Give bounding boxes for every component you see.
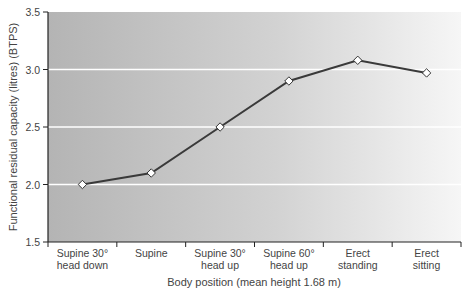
x-category-label: Supine <box>135 247 168 259</box>
y-tick-label: 3.0 <box>25 64 40 76</box>
y-ticks: 1.52.02.53.03.5 <box>25 6 48 248</box>
y-tick-label: 2.5 <box>25 121 40 133</box>
x-axis-title: Body position (mean height 1.68 m) <box>167 276 341 288</box>
x-category-label: Erectsitting <box>413 247 441 271</box>
line-chart: 1.52.02.53.03.5 Supine 30°head downSupin… <box>0 0 469 298</box>
y-tick-label: 2.0 <box>25 179 40 191</box>
x-category-label: Supine 60°head up <box>263 247 315 271</box>
x-category-label: Erectstanding <box>338 247 378 271</box>
x-category-label: Supine 30°head down <box>57 247 109 271</box>
y-tick-label: 1.5 <box>25 236 40 248</box>
x-ticks: Supine 30°head downSupineSupine 30°head … <box>48 242 461 271</box>
y-axis-title: Functional residual capacity (litres) (B… <box>7 23 19 231</box>
y-tick-label: 3.5 <box>25 6 40 18</box>
x-category-label: Supine 30°head up <box>194 247 246 271</box>
